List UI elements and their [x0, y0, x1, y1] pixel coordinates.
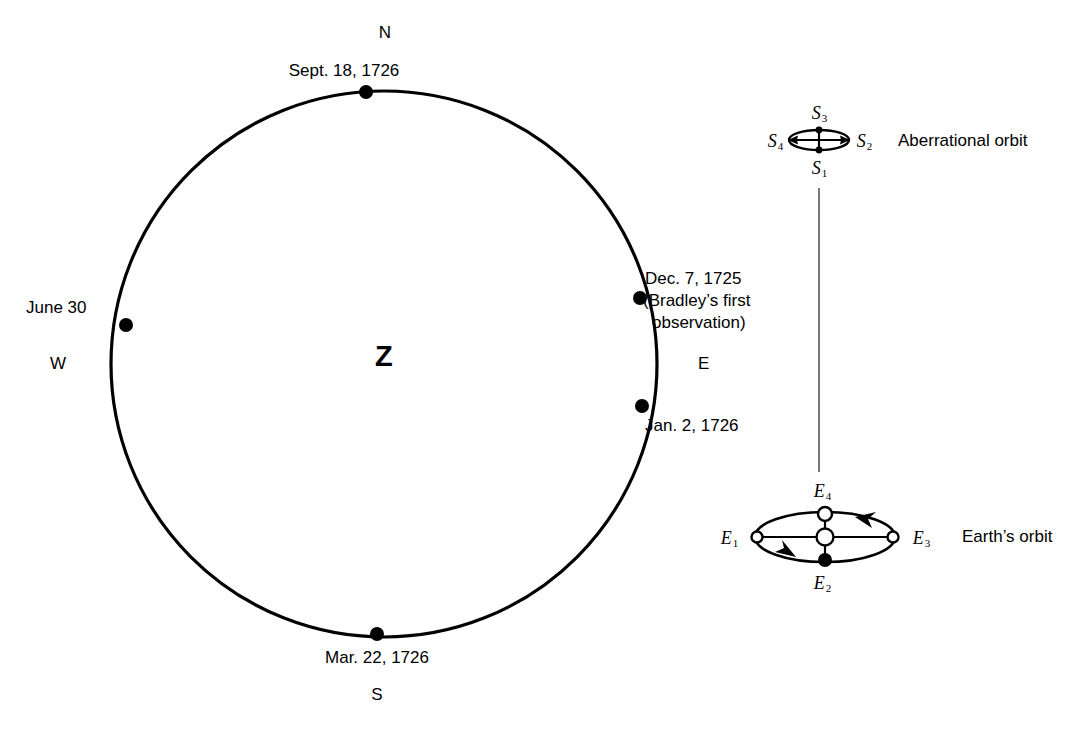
- marker-label-sept18: Sept. 18, 1726: [289, 60, 400, 81]
- point-label-e4-letter: E: [814, 481, 825, 501]
- compass-label-east: E: [698, 353, 709, 374]
- node-dot-e2: [818, 553, 832, 567]
- point-label-e4-index: 4: [826, 490, 832, 502]
- aberration-diagram: N Sept. 18, 1726 Dec. 7, 1725 (Bradley’s…: [0, 0, 1078, 739]
- point-label-s3-index: 3: [822, 112, 828, 124]
- earth-orbit-caption: Earth’s orbit: [962, 526, 1052, 547]
- point-label-e2-index: 2: [826, 582, 832, 594]
- marker-dot-mar22: [370, 627, 384, 641]
- point-label-s4-index: 4: [778, 140, 784, 152]
- marker-dot-june30: [119, 318, 133, 332]
- point-label-s2-index: 2: [867, 140, 873, 152]
- node-circle-e1: [752, 532, 763, 543]
- point-label-e1-letter: E: [721, 528, 732, 548]
- node-circle-e3: [888, 532, 899, 543]
- marker-dot-sept18: [359, 85, 373, 99]
- node-dot-s1: [816, 147, 823, 154]
- aberrational-orbit-inset: [788, 127, 850, 154]
- point-label-e3-letter: E: [913, 528, 924, 548]
- node-dot-s3: [816, 127, 823, 134]
- point-label-s1: S1: [812, 158, 827, 179]
- point-label-s1-index: 1: [822, 167, 828, 179]
- marker-label-dec7-note-line2: observation): [652, 312, 746, 333]
- point-label-s4-letter: S: [768, 131, 777, 151]
- point-label-e2-letter: E: [814, 573, 825, 593]
- compass-label-north: N: [379, 22, 391, 43]
- point-label-e1-index: 1: [733, 537, 739, 549]
- diagram-vector-layer: [0, 0, 1078, 739]
- point-label-e2: E2: [814, 573, 831, 594]
- marker-label-jan2: Jan. 2, 1726: [645, 415, 739, 436]
- aberrational-orbit-caption: Aberrational orbit: [898, 130, 1027, 151]
- compass-label-west: W: [50, 353, 66, 374]
- node-circle-sun: [817, 529, 834, 546]
- zenith-label: Z: [375, 346, 393, 367]
- node-circle-e4: [818, 507, 832, 521]
- marker-dot-jan2: [635, 399, 649, 413]
- point-label-s1-letter: S: [812, 158, 821, 178]
- marker-label-mar22: Mar. 22, 1726: [325, 647, 429, 668]
- compass-label-south: S: [371, 684, 382, 705]
- point-label-s2: S2: [857, 131, 872, 152]
- point-label-s4: S4: [768, 131, 783, 152]
- point-label-s3-letter: S: [812, 103, 821, 123]
- marker-label-dec7-note-line1: (Bradley’s first: [643, 290, 750, 311]
- point-label-s3: S3: [812, 103, 827, 124]
- point-label-e3: E3: [913, 528, 930, 549]
- point-label-e1: E1: [721, 528, 738, 549]
- marker-label-dec7: Dec. 7, 1725: [645, 268, 741, 289]
- point-label-e4: E4: [814, 481, 831, 502]
- marker-label-june30: June 30: [26, 297, 87, 318]
- point-label-e3-index: 3: [925, 537, 931, 549]
- earth-orbit-inset: [752, 507, 899, 567]
- point-label-s2-letter: S: [857, 131, 866, 151]
